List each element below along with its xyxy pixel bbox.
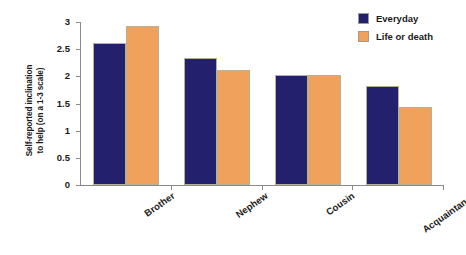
y-axis-tick-label: 1.5 xyxy=(57,98,70,109)
x-axis-label-acquaintance: Acquaintance xyxy=(420,190,466,235)
y-axis-tick-label: 3 xyxy=(65,16,70,27)
y-axis-title: Self-reported inclination to help (on a … xyxy=(25,26,46,196)
y-axis-tick-label: 2.5 xyxy=(57,43,70,54)
y-axis-tick-label: 0.5 xyxy=(57,152,70,163)
bar-series-group xyxy=(80,22,443,185)
bar-acquaintance-life-or-death xyxy=(399,107,432,185)
bar-cousin-everyday xyxy=(275,75,308,185)
bar-acquaintance-everyday xyxy=(366,86,399,185)
x-axis-label-cousin: Cousin xyxy=(324,190,357,217)
x-axis-tick xyxy=(443,185,444,190)
bar-chart: Self-reported inclination to help (on a … xyxy=(0,0,466,255)
x-axis-label-nephew: Nephew xyxy=(234,190,270,220)
bar-brother-life-or-death xyxy=(126,26,159,185)
y-axis-tick-label: 1 xyxy=(65,125,70,136)
plot-area: 00.511.522.53 xyxy=(80,22,443,185)
bar-brother-everyday xyxy=(93,43,126,185)
y-axis-title-line2: to help (on a 1-3 scale) xyxy=(35,26,46,196)
y-axis-tick-label: 0 xyxy=(65,179,70,190)
bar-cousin-life-or-death xyxy=(308,75,341,185)
y-axis-title-line1: Self-reported inclination xyxy=(25,26,36,196)
y-axis-tick-label: 2 xyxy=(65,70,70,81)
x-axis-label-brother: Brother xyxy=(142,190,176,219)
x-axis-category-labels: BrotherNephewCousinAcquaintance xyxy=(80,190,443,250)
bar-nephew-life-or-death xyxy=(217,70,250,185)
bar-nephew-everyday xyxy=(184,58,217,185)
y-axis-tick: 0 xyxy=(76,185,81,186)
